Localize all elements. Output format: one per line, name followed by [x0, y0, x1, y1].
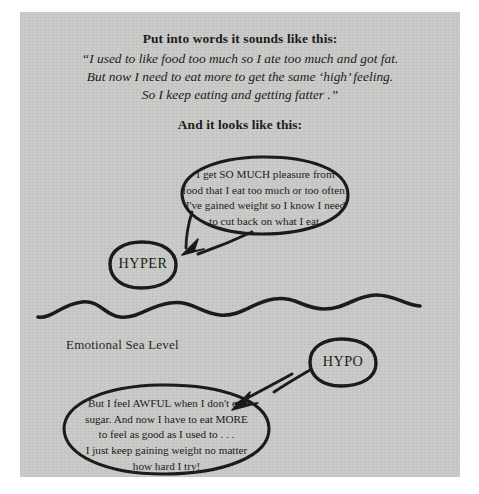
- hyper-label: HYPER: [110, 255, 176, 272]
- sea-level-label: Emotional Sea Level: [66, 337, 179, 353]
- sea-level-wave: [38, 295, 420, 317]
- hypo-label: HYPO: [310, 353, 376, 370]
- page-canvas: Put into words it sounds like this: “I u…: [20, 12, 460, 477]
- hyper-bubble-text: I get SO MUCH pleasure from food that I …: [182, 167, 349, 230]
- hypo-bubble-text: But I feel AWFUL when I don't eat sugar.…: [67, 396, 266, 474]
- hyper-bubble-tail: [198, 232, 252, 254]
